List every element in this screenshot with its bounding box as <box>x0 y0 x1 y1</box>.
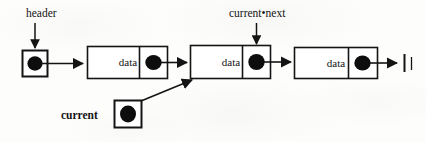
current-pointer-dot <box>120 106 136 123</box>
node-1-data-label: data <box>103 57 153 68</box>
arrow-current-to-node2 <box>141 80 192 101</box>
current-label: current <box>61 110 98 122</box>
header-label: header <box>26 8 57 20</box>
current-box <box>115 101 142 128</box>
node-3-data-label: data <box>311 58 361 69</box>
null-terminator-icon <box>405 54 412 72</box>
linked-list-diagram: header current•next current data data da… <box>0 0 426 142</box>
current-next-label: current•next <box>229 8 285 20</box>
node-2-data-label: data <box>206 57 256 68</box>
